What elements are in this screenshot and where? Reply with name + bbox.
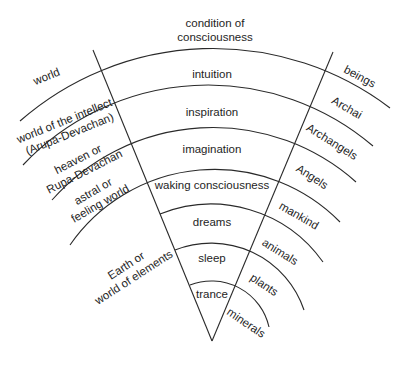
consciousness-waking: waking consciousness	[154, 179, 270, 191]
beings-column-header: beings	[342, 63, 378, 90]
consciousness-imagination: imagination	[183, 143, 242, 155]
beings-animals: animals	[260, 236, 300, 267]
consciousness-intuition: intuition	[192, 68, 232, 80]
consciousness-inspiration: inspiration	[186, 106, 238, 118]
title-line-2: consciousness	[177, 31, 253, 43]
consciousness-cone-diagram: condition of consciousness world beings …	[0, 0, 413, 367]
beings-archai: Archai	[330, 94, 364, 121]
cone-right-edge	[212, 52, 333, 341]
consciousness-trance: trance	[196, 288, 228, 300]
consciousness-dreams: dreams	[193, 216, 232, 228]
beings-angels: Angels	[294, 162, 330, 191]
world-column-header: world	[31, 66, 62, 88]
beings-plants: plants	[248, 271, 280, 298]
beings-mankind: mankind	[277, 199, 321, 231]
beings-archangels: Archangels	[305, 121, 360, 162]
title-line-1: condition of	[186, 17, 246, 29]
beings-minerals: minerals	[225, 306, 268, 340]
consciousness-sleep: sleep	[198, 252, 226, 264]
